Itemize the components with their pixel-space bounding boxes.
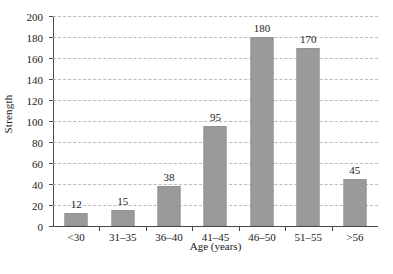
bar-chart-figure: Strength 020406080100120140160180200 121… (0, 0, 393, 274)
bar[interactable] (343, 179, 366, 226)
y-axis-tick-label: 100 (27, 117, 44, 128)
y-axis-tick-label: 20 (32, 201, 43, 212)
bar[interactable] (297, 48, 320, 227)
y-axis-tick-label: 60 (32, 159, 43, 170)
bar[interactable] (204, 126, 227, 226)
bar-value-label: 180 (254, 23, 271, 34)
y-axis-tick-label: 200 (27, 12, 44, 23)
bar-value-label: 45 (349, 165, 360, 176)
x-axis-tick (239, 226, 240, 231)
bar[interactable] (158, 186, 181, 226)
bar[interactable] (111, 210, 134, 226)
x-axis-tick (285, 226, 286, 231)
y-axis-tick-label: 180 (27, 33, 44, 44)
x-axis-line (53, 226, 378, 227)
bar[interactable] (250, 37, 273, 226)
y-axis-tick-label: 80 (32, 138, 43, 149)
x-axis-tick (146, 226, 147, 231)
bar-value-label: 95 (210, 112, 221, 123)
bar-group[interactable]: 12 (53, 16, 99, 226)
y-axis-title: Strength (0, 0, 16, 228)
x-axis-title: Age (years) (53, 240, 378, 252)
y-axis-title-label: Strength (2, 95, 14, 134)
bar-group[interactable]: 45 (332, 16, 378, 226)
x-axis-tick (332, 226, 333, 231)
y-axis-tick-label: 120 (27, 96, 44, 107)
bar-value-label: 15 (117, 196, 128, 207)
y-axis-tick-label: 140 (27, 75, 44, 86)
bar-group[interactable]: 38 (146, 16, 192, 226)
y-axis-tick-label: 160 (27, 54, 44, 65)
bar-value-label: 12 (71, 199, 82, 210)
x-axis-tick (192, 226, 193, 231)
bar-group[interactable]: 170 (285, 16, 331, 226)
y-axis-tick: 0 (49, 226, 53, 227)
bar-value-label: 170 (300, 34, 317, 45)
y-axis-tick-label: 0 (38, 222, 44, 233)
bar-group[interactable]: 95 (192, 16, 238, 226)
x-axis-title-label: Age (years) (190, 240, 242, 252)
bar[interactable] (65, 213, 88, 226)
bar-group[interactable]: 180 (239, 16, 285, 226)
plot-area: 020406080100120140160180200 121538951801… (53, 16, 378, 227)
x-axis-tick (99, 226, 100, 231)
y-axis-tick-label: 40 (32, 180, 43, 191)
bar-value-label: 38 (164, 172, 175, 183)
bar-group[interactable]: 15 (99, 16, 145, 226)
